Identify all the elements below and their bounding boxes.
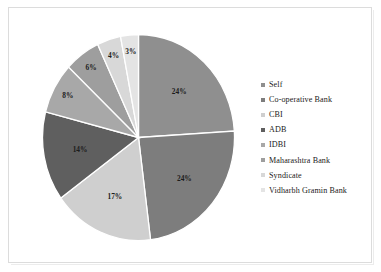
pie-slice-value-label: 8% bbox=[62, 91, 73, 100]
legend-item-label: Self bbox=[269, 80, 282, 89]
pie-slice-value-label: 6% bbox=[86, 63, 97, 72]
square-marker-icon bbox=[261, 113, 265, 117]
pie-slice-value-label: 3% bbox=[125, 47, 136, 56]
square-marker-icon bbox=[261, 173, 265, 177]
pie-chart: 24%24%17%14%8%6%4%3% bbox=[41, 34, 236, 241]
pie-slice[interactable] bbox=[139, 131, 235, 240]
legend-item[interactable]: Co-operative Bank bbox=[261, 92, 381, 107]
square-marker-icon bbox=[261, 98, 265, 102]
pie-slice-value-label: 4% bbox=[108, 51, 119, 60]
pie-chart-svg: 24%24%17%14%8%6%4%3% bbox=[41, 34, 236, 241]
pie-slice-value-label: 24% bbox=[172, 87, 187, 96]
pie-slice-value-label: 24% bbox=[177, 174, 192, 183]
legend-item[interactable]: CBI bbox=[261, 107, 381, 122]
figure-frame: 24%24%17%14%8%6%4%3% SelfCo-operative Ba… bbox=[8, 7, 372, 263]
legend-item-label: IDBI bbox=[269, 140, 286, 149]
square-marker-icon bbox=[261, 143, 265, 147]
pie-chart-area: 24%24%17%14%8%6%4%3% bbox=[31, 26, 243, 250]
legend-item[interactable]: Self bbox=[261, 77, 381, 92]
legend-item-label: Syndicate bbox=[269, 171, 302, 180]
pie-slice-value-label: 14% bbox=[73, 145, 88, 154]
legend-item-label: CBI bbox=[269, 110, 283, 119]
pie-slices bbox=[43, 34, 235, 240]
chart-legend: SelfCo-operative BankCBIADBIDBIMaharasht… bbox=[261, 77, 381, 198]
legend-item[interactable]: Maharashtra Bank bbox=[261, 152, 381, 167]
square-marker-icon bbox=[261, 188, 265, 192]
legend-item-label: Maharashtra Bank bbox=[269, 156, 330, 165]
legend-item-label: Co-operative Bank bbox=[269, 95, 332, 104]
square-marker-icon bbox=[261, 128, 265, 132]
square-marker-icon bbox=[261, 83, 265, 87]
legend-item-label: ADB bbox=[269, 125, 286, 134]
legend-item[interactable]: ADB bbox=[261, 122, 381, 137]
legend-item[interactable]: Syndicate bbox=[261, 168, 381, 183]
legend-item[interactable]: IDBI bbox=[261, 137, 381, 152]
square-marker-icon bbox=[261, 158, 265, 162]
legend-item-label: Vidharbh Gramin Bank bbox=[269, 186, 347, 195]
pie-slice-value-label: 17% bbox=[107, 192, 122, 201]
screenshot-root: 24%24%17%14%8%6%4%3% SelfCo-operative Ba… bbox=[0, 0, 381, 272]
legend-item[interactable]: Vidharbh Gramin Bank bbox=[261, 183, 381, 198]
